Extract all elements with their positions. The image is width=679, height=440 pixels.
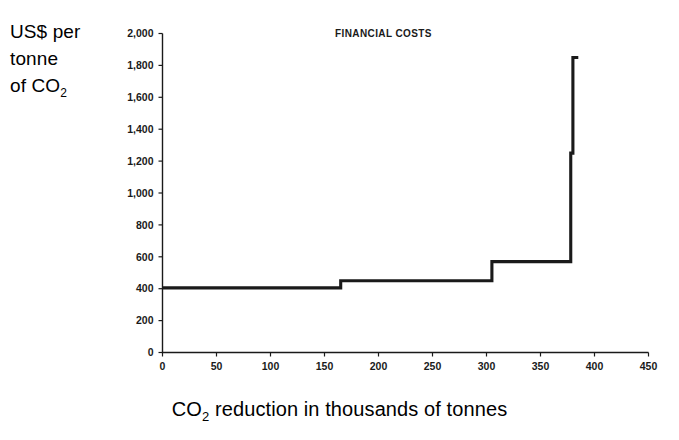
x-tick-label: 0 [160,360,166,372]
x-tick-label: 250 [424,360,442,372]
y-tick-label: 1,000 [127,187,153,199]
y-tick-label: 2,000 [127,27,153,39]
x-tick-label: 150 [316,360,334,372]
y-tick-label: 0 [148,346,154,358]
x-axis-caption: CO2 reduction in thousands of tonnes [0,398,679,421]
plot-area: 02004006008001,0001,2001,4001,6001,8002,… [0,0,679,440]
y-axis-ticks: 02004006008001,0001,2001,4001,6001,8002,… [127,27,162,358]
y-tick-label: 1,800 [127,59,153,71]
y-tick-label: 1,400 [127,123,153,135]
y-tick-label: 1,600 [127,91,153,103]
y-tick-label: 600 [136,251,154,263]
x-tick-label: 200 [370,360,388,372]
axis-lines [163,34,649,353]
x-tick-label: 50 [211,360,223,372]
y-tick-label: 800 [136,219,154,231]
x-tick-label: 350 [532,360,550,372]
y-tick-label: 400 [136,282,154,294]
x-axis-ticks: 050100150200250300350400450 [160,353,658,372]
step-series-line [163,57,579,287]
x-tick-label: 100 [262,360,280,372]
x-tick-label: 450 [640,360,658,372]
x-axis-caption-prefix: CO [172,398,202,420]
x-tick-label: 400 [586,360,604,372]
financial-costs-chart: US$ per tonne of CO2 FINANCIAL COSTS 020… [0,0,679,440]
x-tick-label: 300 [478,360,496,372]
y-tick-label: 200 [136,314,154,326]
y-tick-label: 1,200 [127,155,153,167]
x-axis-caption-suffix: reduction in thousands of tonnes [209,398,507,420]
